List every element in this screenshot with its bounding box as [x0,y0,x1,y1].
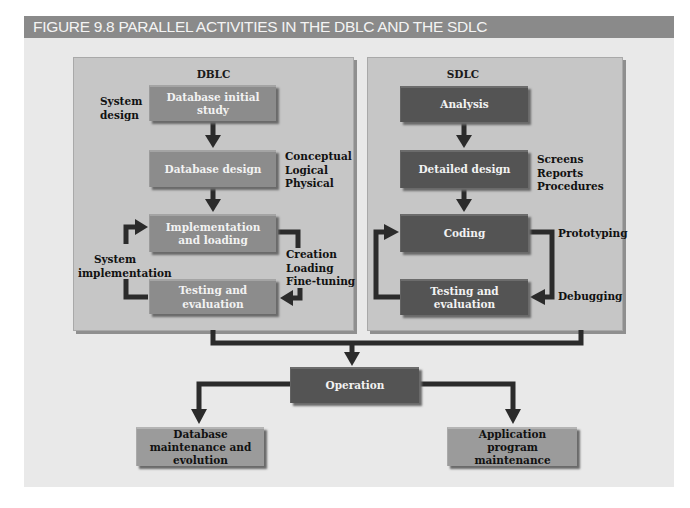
debugging-label: Debugging [558,290,622,304]
design-levels-label: Conceptual Logical Physical [285,150,352,191]
dblc-initial-study-box: Database initial study [149,85,276,121]
sdlc-analysis-box: Analysis [400,86,528,122]
implementation-steps-label: Creation Loading Fine-tuning [286,248,355,289]
operation-box: Operation [290,367,419,403]
db-maintenance-box: Database maintenance and evolution [136,427,264,466]
app-maintenance-box: Application program maintenance [447,427,577,466]
prototyping-label: Prototyping [558,227,628,241]
dblc-database-design-box: Database design [149,150,276,187]
sdlc-testing-box: Testing and evaluation [400,279,528,315]
dblc-testing-box: Testing and evaluation [149,279,276,314]
sdlc-coding-box: Coding [400,214,528,252]
system-implementation-label: System implementation [78,253,152,280]
dblc-implementation-box: Implementation and loading [149,214,276,252]
system-design-label: System design [100,95,144,122]
sdlc-detailed-design-box: Detailed design [400,150,528,188]
design-items-label: Screens Reports Procedures [537,153,604,194]
